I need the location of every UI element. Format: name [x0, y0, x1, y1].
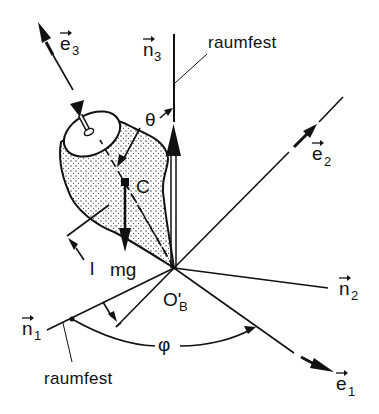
svg-text:1: 1	[34, 328, 41, 343]
label-e3: e 3	[60, 30, 79, 58]
label-origin: O' B	[163, 289, 188, 314]
svg-text:2: 2	[351, 288, 358, 303]
svg-text:e: e	[60, 33, 71, 54]
phi-label: φ	[158, 334, 170, 355]
e2-axis	[174, 152, 289, 268]
e1-arrow-icon	[310, 358, 334, 372]
svg-text:3: 3	[72, 43, 79, 58]
spinning-top-diagram: e 3 n 3 raumfest θ e 2 C l mg n 2 O' B n…	[0, 0, 379, 414]
svg-text:B: B	[179, 299, 188, 314]
label-n1: n 1	[22, 315, 41, 343]
label-n2: n 2	[339, 275, 358, 303]
length-label: l	[90, 258, 94, 279]
theta-marker	[160, 108, 173, 118]
raumfest-top-label: raumfest	[208, 33, 277, 52]
center-label: C	[136, 176, 150, 197]
raumfest-bottom-label: raumfest	[44, 369, 113, 388]
svg-text:n: n	[22, 318, 33, 339]
n3-arrow-icon	[166, 124, 181, 156]
e3-arrow-icon	[38, 22, 51, 43]
svg-text:n: n	[339, 278, 350, 299]
svg-text:e: e	[336, 373, 347, 394]
weight-label: mg	[110, 259, 136, 280]
svg-text:e: e	[312, 143, 323, 164]
label-n3: n 3	[143, 36, 161, 64]
label-e1: e 1	[336, 370, 355, 399]
raumfest-bottom-leader	[63, 323, 72, 362]
svg-text:2: 2	[324, 154, 331, 169]
raumfest-top-leader	[175, 54, 207, 83]
label-e2: e 2	[312, 140, 331, 169]
theta-label: θ	[145, 109, 156, 130]
svg-text:n: n	[143, 39, 154, 60]
svg-text:3: 3	[154, 49, 161, 64]
svg-text:1: 1	[348, 384, 355, 399]
